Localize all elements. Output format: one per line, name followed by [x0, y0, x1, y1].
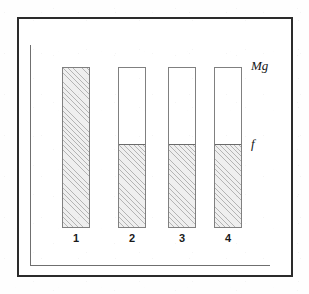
annotation-mg-label: Mg — [251, 58, 268, 74]
x-axis-line — [30, 265, 270, 266]
bar-1-hatched-region — [63, 68, 89, 227]
bar-1 — [62, 67, 90, 228]
bar-1-label: 1 — [62, 232, 90, 244]
annotation-f-label: f — [251, 136, 255, 152]
bar-3 — [168, 67, 196, 228]
figure-root: 1 2 3 4 Mg f — [0, 0, 309, 294]
bar-3-hatched-region — [169, 144, 195, 227]
bar-2-hatched-region — [119, 144, 145, 227]
bar-4-hatched-region — [215, 144, 241, 227]
bar-4 — [214, 67, 242, 228]
bar-3-label: 3 — [168, 232, 196, 244]
y-axis-line — [30, 45, 31, 266]
bar-2-label: 2 — [118, 232, 146, 244]
bar-4-label: 4 — [214, 232, 242, 244]
bar-2 — [118, 67, 146, 228]
